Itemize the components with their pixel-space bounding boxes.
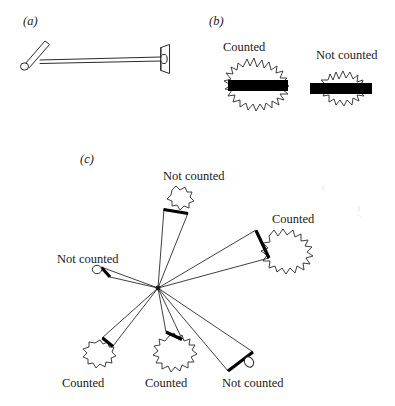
panel-c-top-bar — [164, 210, 189, 214]
panel-b-not-counted-label: Not counted — [316, 48, 378, 62]
probe-device — [21, 41, 170, 74]
figure-canvas: (a) (b) Counted — [0, 0, 395, 406]
panel-c-bottom-left-label: Counted — [62, 376, 105, 390]
panel-c-bottom-center-blob — [153, 333, 197, 372]
panel-c-vertex — [156, 286, 161, 291]
probe-shaft-bottom — [40, 61, 161, 64]
panel-c-bottom-left-wedge — [102, 288, 158, 346]
panel-a: (a) — [21, 14, 170, 74]
scan-artifact-right — [357, 206, 361, 217]
probe-shaft-top — [40, 57, 161, 60]
panel-c-bottom-right-label: Not counted — [222, 376, 284, 390]
panel-b-counted-bar — [228, 80, 288, 91]
panel-c-top-label: Not counted — [163, 169, 225, 183]
panel-c-right-wedge — [158, 230, 269, 288]
panel-c: (c) Not counted Counted Not counted — [57, 152, 361, 390]
panel-c-right-label: Counted — [272, 212, 315, 226]
panel-c-bottom-center-label: Counted — [145, 376, 188, 390]
panel-c-left-circle — [92, 265, 101, 273]
panel-b-label: (b) — [209, 14, 224, 28]
panel-c-left-wedge — [101, 267, 158, 288]
figure-root: (a) (b) Counted — [0, 0, 395, 406]
panel-c-left-label: Not counted — [57, 252, 119, 266]
panel-c-right-blob — [261, 229, 313, 274]
panel-b-item-counted: Counted — [223, 40, 289, 111]
panel-b-counted-label: Counted — [223, 40, 266, 54]
panel-b: (b) Counted Not counted — [209, 14, 378, 111]
panel-c-top-blob — [167, 186, 194, 210]
panel-c-wedge-bottom-left: Counted — [62, 288, 158, 390]
panel-b-not-counted-bar — [310, 83, 372, 94]
panel-c-label: (c) — [80, 152, 94, 166]
probe-handle-ring — [21, 63, 29, 70]
panel-c-top-wedge — [158, 209, 188, 288]
scan-artifact-left — [322, 186, 325, 190]
panel-a-label: (a) — [23, 14, 38, 28]
panel-b-item-not-counted: Not counted — [310, 48, 378, 106]
probe-tip-ring — [161, 54, 167, 63]
panel-c-wedge-left: Not counted — [57, 252, 158, 288]
panel-c-wedge-right: Counted — [158, 212, 315, 288]
panel-c-wedge-top: Not counted — [158, 169, 225, 288]
